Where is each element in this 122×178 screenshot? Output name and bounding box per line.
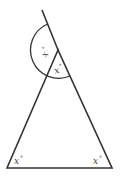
exterior-angle-label: x ° xyxy=(37,45,52,59)
apex-angle-label: x ° xyxy=(52,62,64,76)
apex-angle-degree: ° xyxy=(58,62,63,70)
bottom-right-angle-degree: ° xyxy=(99,154,102,161)
bottom-left-angle-label: x ° xyxy=(14,154,23,166)
bottom-right-angle-variable: x xyxy=(93,156,98,166)
side-extension-line xyxy=(42,10,58,50)
bottom-right-angle-label: x ° xyxy=(93,154,102,166)
bottom-left-angle-degree: ° xyxy=(20,154,23,161)
bottom-left-angle-variable: x xyxy=(14,156,19,166)
triangle-diagram: x ° x ° x ° x ° xyxy=(0,0,122,178)
